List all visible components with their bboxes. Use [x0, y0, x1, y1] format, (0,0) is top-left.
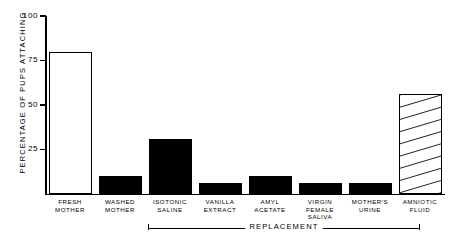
- bar-amniotic-fluid: [399, 94, 442, 194]
- y-tick-label-wrap-75: 75: [0, 56, 38, 64]
- category-label-line-2: FLUID: [380, 206, 451, 214]
- category-label-line-1: AMNIOTIC: [380, 198, 451, 206]
- bar-mother-s-urine: [349, 183, 392, 194]
- bar-amyl-acetate: [249, 176, 292, 194]
- bracket-label-wrap: REPLACEMENT: [148, 222, 420, 231]
- category-label-amniotic-fluid: AMNIOTICFLUID: [380, 198, 451, 213]
- plot-area: [45, 16, 445, 194]
- y-tick-label-100: 100: [23, 12, 38, 20]
- bar-washed-mother: [99, 176, 142, 194]
- y-tick-label-wrap-25: 25: [0, 145, 38, 153]
- y-tick-label-75: 75: [28, 56, 38, 64]
- bar-fresh-mother: [49, 52, 92, 194]
- y-tick-label-wrap-100: 100: [0, 12, 38, 20]
- y-tick-label-wrap-50: 50: [0, 101, 38, 109]
- hatch-pattern: [400, 95, 441, 193]
- category-label-line-3: SALIVA: [280, 213, 360, 221]
- bar-vanilla-extract: [199, 183, 242, 194]
- bracket-label: REPLACEMENT: [245, 222, 322, 231]
- y-tick-label-50: 50: [28, 101, 38, 109]
- replacement-bracket: REPLACEMENT: [148, 222, 420, 234]
- bar-virgin-female-saliva: [299, 183, 342, 194]
- y-tick-label-25: 25: [28, 145, 38, 153]
- bar-chart-figure: PERCENTAGE OF PUPS ATTACHING 255075100 F…: [0, 0, 451, 239]
- y-axis-label: PERCENTAGE OF PUPS ATTACHING: [18, 3, 27, 183]
- bar-isotonic-saline: [149, 139, 192, 194]
